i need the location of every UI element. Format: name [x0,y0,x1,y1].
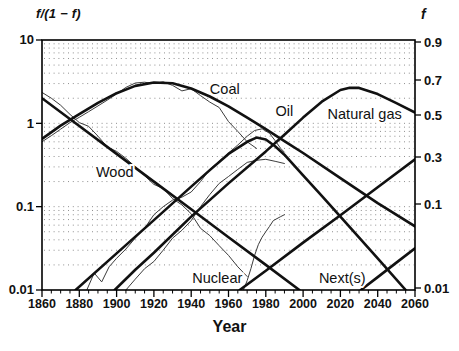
x-axis-ticks: 1860188019001920194019601980200020202040… [28,290,429,311]
chart-canvas: 1860188019001920194019601980200020202040… [0,0,459,351]
right-axis-ticks: 0.90.70.50.30.10.01 [415,35,449,296]
left-tick-label: 1 [27,116,34,131]
x-tick-label: 2060 [401,297,429,311]
x-tick-label: 1960 [215,297,243,311]
right-tick-label: 0.01 [424,281,449,296]
x-tick-label: 1880 [65,297,93,311]
series-next-model [361,248,415,290]
x-tick-label: 1920 [140,297,168,311]
x-tick-label: 1860 [28,297,56,311]
series-label-nuclear: Nuclear [192,270,242,286]
x-tick-label: 1980 [252,297,280,311]
x-tick-label: 2000 [289,297,317,311]
right-tick-label: 0.1 [424,197,442,212]
left-tick-label: 0.01 [9,282,34,297]
left-axis-title: f/(1 − f) [36,6,81,21]
left-tick-label: 0.1 [16,199,34,214]
right-tick-label: 0.7 [424,73,442,88]
right-tick-label: 0.9 [424,35,442,50]
series-label-oil: Oil [276,103,294,119]
x-tick-label: 2040 [364,297,392,311]
series-label-wood: Wood [96,164,134,180]
x-tick-label: 2020 [326,297,354,311]
logistic-substitution-energy-chart: f/(1 − f) f 1860188019001920194019601980… [0,0,459,351]
right-tick-label: 0.5 [424,108,442,123]
series-labels: CoalOilNatural gasWoodNuclearNext(s) [96,81,402,286]
right-tick-label: 0.3 [424,150,442,165]
series-label-next-s-: Next(s) [319,270,366,286]
x-axis-title: Year [0,318,459,336]
left-axis-ticks: 1010.10.01 [9,32,42,297]
x-tick-label: 1940 [177,297,205,311]
x-tick-label: 1900 [103,297,131,311]
series-label-coal: Coal [210,81,240,97]
series-label-natural-gas: Natural gas [328,106,402,122]
left-tick-label: 10 [20,32,34,47]
right-axis-title: f [421,6,426,22]
